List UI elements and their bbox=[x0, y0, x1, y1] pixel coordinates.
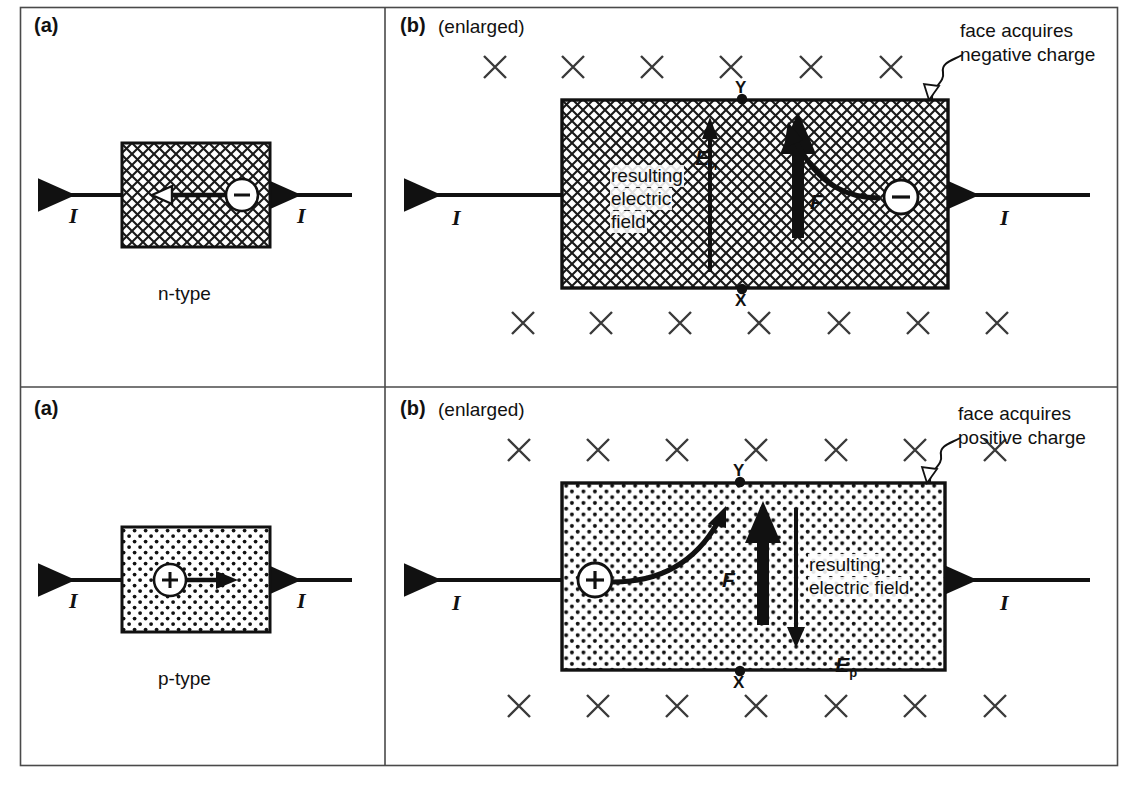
magnetic-field-marks-bottom-lower bbox=[508, 695, 1006, 717]
panel-tag-bottom-left: (a) bbox=[34, 397, 58, 420]
current-label-in-b-bottom: I bbox=[452, 590, 461, 616]
corner-label-X-bottom: X bbox=[733, 673, 744, 693]
corner-label-Y-bottom: Y bbox=[733, 461, 744, 481]
field-subscript-p: p bbox=[849, 666, 857, 681]
panel-bottom-right-diagram bbox=[408, 438, 1090, 717]
field-symbol-E-bottom: E bbox=[835, 653, 849, 676]
panel-tag-top-right: (b) bbox=[400, 14, 426, 37]
panel-tag-top-left: (a) bbox=[34, 14, 58, 37]
field-subscript-n: n bbox=[709, 159, 717, 174]
panel-top-right-diagram bbox=[408, 55, 1090, 334]
magnetic-field-marks-top-lower bbox=[512, 312, 1008, 334]
field-note-line1-bottom: resulting bbox=[808, 554, 882, 576]
current-label-in-b-top: I bbox=[452, 205, 461, 231]
current-label-in-a-top: I bbox=[69, 203, 78, 229]
field-note-line2-bottom: electric field bbox=[808, 577, 910, 599]
magnetic-field-marks-top-upper bbox=[484, 56, 902, 78]
field-symbol-E-top: E bbox=[695, 146, 709, 169]
hall-effect-figure: (a) I I n-type (b) (enlarged) face acqui… bbox=[0, 0, 1126, 792]
callout-line2-bottom: positive charge bbox=[958, 427, 1086, 449]
current-label-out-a-bottom: I bbox=[297, 588, 306, 614]
current-label-out-b-top: I bbox=[1000, 205, 1009, 231]
panel-tag-bottom-right: (b) bbox=[400, 397, 426, 420]
corner-label-X-top: X bbox=[735, 291, 746, 311]
field-note-line2-top: electric bbox=[610, 188, 672, 210]
magnetic-field-marks-bottom-upper bbox=[508, 439, 1006, 461]
callout-line2-top: negative charge bbox=[960, 44, 1095, 66]
callout-line1-top: face acquires bbox=[960, 20, 1073, 42]
panel-top-left-diagram bbox=[42, 143, 352, 247]
current-label-out-a-top: I bbox=[297, 203, 306, 229]
force-symbol-top: F bbox=[810, 190, 823, 214]
current-label-in-a-bottom: I bbox=[69, 588, 78, 614]
callout-leader-bottom bbox=[930, 438, 960, 483]
corner-label-Y-top: Y bbox=[735, 78, 746, 98]
field-note-line3-top: field bbox=[610, 211, 647, 233]
material-label-n-type: n-type bbox=[158, 283, 211, 305]
current-label-out-b-bottom: I bbox=[1000, 590, 1009, 616]
callout-leader-top bbox=[932, 55, 962, 100]
callout-line1-bottom: face acquires bbox=[958, 403, 1071, 425]
force-symbol-bottom: F bbox=[722, 568, 735, 592]
panel-subtitle-top-right: (enlarged) bbox=[438, 16, 525, 38]
panel-bottom-left-diagram bbox=[42, 527, 352, 632]
material-label-p-type: p-type bbox=[158, 668, 211, 690]
electric-field-symbol-bottom: Ep bbox=[812, 629, 857, 705]
panel-subtitle-bottom-right: (enlarged) bbox=[438, 399, 525, 421]
field-note-line1-top: resulting bbox=[610, 165, 684, 187]
